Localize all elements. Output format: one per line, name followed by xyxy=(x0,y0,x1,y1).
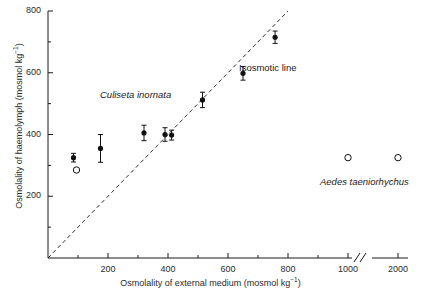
y-axis-title-tail: ) xyxy=(14,43,24,46)
culiseta-inornata-label: Culiseta inornata xyxy=(100,89,171,100)
y-tick-label-400: 400 xyxy=(26,129,41,139)
y-tick-label-600: 600 xyxy=(26,67,41,77)
x-tick-label-600: 600 xyxy=(220,264,235,274)
y-axis-title-superscript: −1 xyxy=(12,46,19,53)
y-tick-label-800: 800 xyxy=(26,5,41,15)
x-tick-label-2000: 2000 xyxy=(388,264,408,274)
x-axis-title-main: Osmolality of external medium (mosmol kg xyxy=(120,278,290,288)
x-axis-title-tail: ) xyxy=(298,278,301,288)
x-axis-title-superscript: −1 xyxy=(290,276,297,283)
isosmotic-line-label: Isosmotic line xyxy=(239,62,297,73)
x-tick-label-800: 800 xyxy=(280,264,295,274)
x-tick-label-200: 200 xyxy=(100,264,115,274)
aedes-taeniorhychus-label: Aedes taeniorhychus xyxy=(320,176,409,187)
y-axis-title: Osmolality of haemolymph (mosmol kg−1) xyxy=(12,26,24,226)
y-tick-label-200: 200 xyxy=(26,190,41,200)
chart-canvas xyxy=(0,0,421,297)
x-tick-label-1000: 1000 xyxy=(338,264,358,274)
x-tick-label-400: 400 xyxy=(160,264,175,274)
y-axis-title-main: Osmolality of haemolymph (mosmol kg xyxy=(14,54,24,209)
x-axis-title: Osmolality of external medium (mosmol kg… xyxy=(0,276,421,288)
